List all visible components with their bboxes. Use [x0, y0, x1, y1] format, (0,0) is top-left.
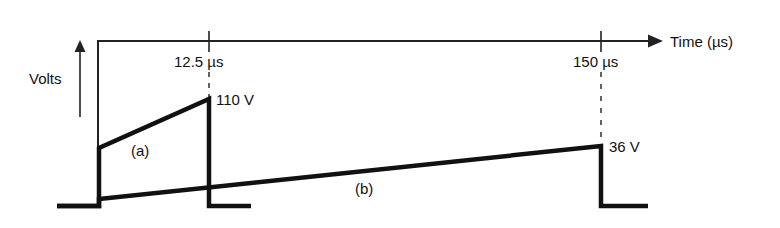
curve-a-path [57, 99, 251, 206]
tick-label-12-5us: 12.5 µs [174, 53, 224, 70]
peak-value-label-110v: 110 V [216, 91, 254, 108]
x-axis-label: Time (µs) [670, 33, 733, 50]
volts-arrow-head-icon [75, 40, 86, 52]
y-axis-label: Volts [29, 70, 62, 87]
curve-a-waveform [57, 99, 251, 206]
time-axis-arrowhead [648, 35, 663, 48]
figure-container: Volts Time (µs) 12.5 µs 150 µs 110 V 36 … [0, 0, 780, 228]
curve-a-label: (a) [131, 142, 149, 159]
tick-label-150us: 150 µs [573, 53, 618, 70]
curve-b-label: (b) [355, 180, 373, 197]
peak-value-label-36v: 36 V [609, 138, 640, 155]
volts-axis-arrow-group [75, 40, 86, 117]
waveform-diagram: Volts Time (µs) 12.5 µs 150 µs 110 V 36 … [0, 0, 780, 228]
